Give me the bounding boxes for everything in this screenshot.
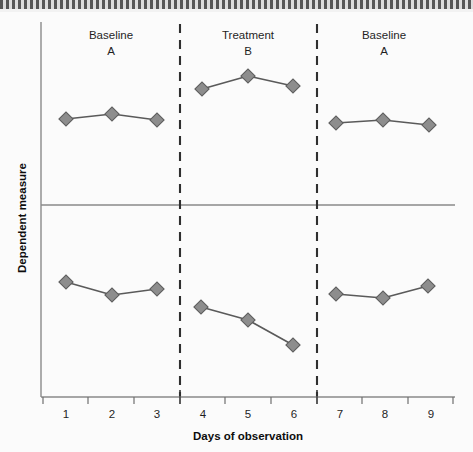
x-tick-label-9: 9 (428, 408, 434, 420)
phase-label-1-condition: A (107, 45, 115, 57)
x-tick-label-2: 2 (109, 408, 115, 420)
x-tick-label-5: 5 (245, 408, 251, 420)
x-tick-label-7: 7 (337, 408, 343, 420)
phase-label-3-name: Baseline (362, 29, 406, 41)
phase-label-3-condition: A (380, 45, 388, 57)
upper-panel-markers (59, 69, 436, 132)
x-tick-label-8: 8 (382, 408, 388, 420)
phase-label-2-name: Treatment (222, 29, 275, 41)
x-tick-label-6: 6 (291, 408, 297, 420)
y-axis-title: Dependent measure (16, 163, 28, 273)
x-tick-label-1: 1 (63, 408, 69, 420)
figure-canvas: Baseline A Treatment B Baseline A (0, 0, 473, 452)
upper-panel-series (59, 69, 436, 132)
x-axis-title: Days of observation (193, 430, 303, 442)
x-tick-label-3: 3 (154, 408, 160, 420)
abab-design-chart: Baseline A Treatment B Baseline A (0, 0, 473, 452)
x-tick-label-4: 4 (200, 408, 207, 420)
lower-panel-series (59, 275, 435, 352)
phase-label-2-condition: B (244, 45, 252, 57)
x-tick-labels: 1 2 3 4 5 6 7 8 9 (63, 408, 434, 420)
phase-label-1-name: Baseline (89, 29, 133, 41)
lower-panel-markers (59, 275, 435, 352)
